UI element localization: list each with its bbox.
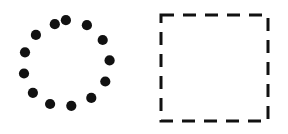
dashed-square-outline	[161, 15, 268, 121]
dashed-square-svg	[0, 0, 288, 134]
dashed-square-figure	[0, 0, 288, 134]
image-canvas	[0, 0, 288, 134]
